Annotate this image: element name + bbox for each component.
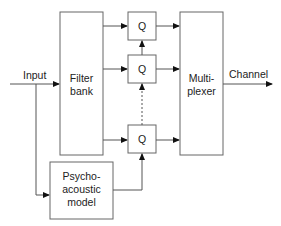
input-label: Input <box>23 69 46 81</box>
psy-label-3: model <box>67 196 96 208</box>
input-to-psy-arrow <box>36 84 49 195</box>
psy-label-1: Psycho- <box>63 170 101 182</box>
quantizer-2-label: Q <box>138 63 146 75</box>
mux-label-2: plexer <box>187 85 216 97</box>
quantizer-1-label: Q <box>138 20 146 32</box>
psy-label-2: acoustic <box>62 183 101 195</box>
mux-label-1: Multi- <box>189 72 215 84</box>
filter-bank-label-1: Filter <box>70 72 94 84</box>
psy-to-qn-arrow <box>113 154 142 190</box>
filter-bank-label-2: bank <box>70 85 94 97</box>
channel-label: Channel <box>229 68 268 80</box>
block-diagram: Input Filter bank Q Q Q Multi- plexer Ch… <box>0 0 281 226</box>
quantizer-n-label: Q <box>138 133 146 145</box>
